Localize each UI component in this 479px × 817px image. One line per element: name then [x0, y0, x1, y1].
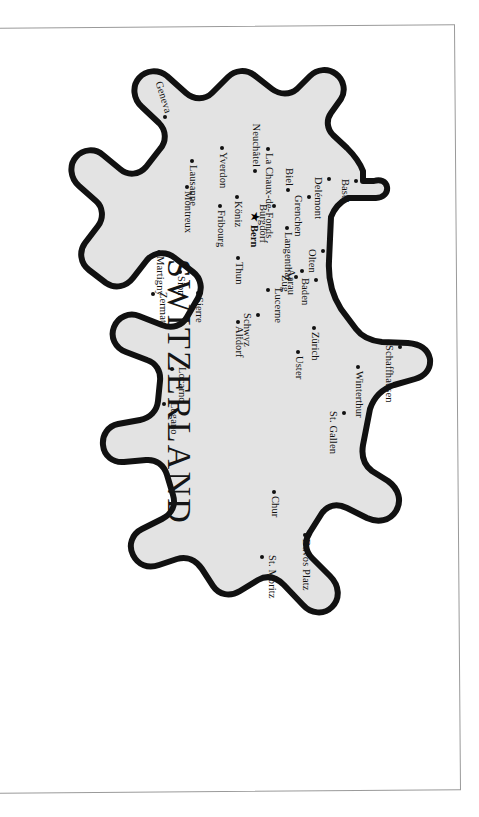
city-dot	[306, 194, 311, 199]
city-label-thun: Thun	[234, 262, 245, 285]
city-dot	[341, 410, 346, 415]
city-dot	[302, 532, 307, 537]
city-dot	[299, 268, 304, 273]
city-label-st-moritz: St. Moritz	[267, 555, 278, 599]
city-dot	[265, 287, 270, 292]
city-dot	[235, 255, 240, 260]
switzerland-outline-svg	[20, 29, 460, 789]
city-dot	[255, 312, 260, 317]
city-label-davos-platz: Davos Platz	[301, 539, 312, 591]
city-label-winterthur: Winterthur	[354, 371, 365, 418]
city-dot	[150, 291, 155, 296]
city-label-basel: Basel	[340, 179, 351, 203]
city-label-koniz: Köniz	[233, 201, 244, 227]
city-label-la-chaux-de-fonds: La Chaux-de-Fonds	[264, 153, 275, 238]
capital-star-icon: ★	[249, 211, 261, 223]
city-label-olten: Olten	[307, 249, 318, 273]
city-label-delemont: Delémont	[313, 177, 324, 219]
city-dot	[284, 225, 289, 230]
map-page: Basel Schaffhausen Winterthur St. Gallen…	[0, 0, 479, 817]
city-label-st-gallen: St. Gallen	[328, 411, 339, 454]
city-dot	[217, 203, 222, 208]
city-label-biel: Biel	[284, 168, 295, 186]
city-label-montreux: Montreux	[183, 191, 194, 233]
city-label-lucerne: Lucerne	[273, 288, 284, 323]
city-dot	[311, 325, 316, 330]
city-dot	[355, 364, 360, 369]
city-dot	[235, 319, 240, 324]
city-dot	[259, 554, 264, 559]
city-dot	[313, 277, 318, 282]
city-label-yverdon: Yverdon	[218, 152, 229, 188]
city-dot	[234, 194, 239, 199]
switzerland-map: Basel Schaffhausen Winterthur St. Gallen…	[20, 29, 460, 789]
city-label-bern: Bern	[249, 225, 260, 248]
city-label-baden: Baden	[300, 278, 311, 305]
city-label-altdorf: Altdorf	[234, 326, 245, 358]
city-dot	[162, 114, 167, 119]
city-dot	[219, 145, 224, 150]
city-dot	[326, 176, 331, 181]
city-dot	[353, 178, 358, 183]
city-label-fribourg: Fribourg	[216, 210, 227, 247]
city-dot	[285, 187, 290, 192]
city-label-chur: Chur	[270, 496, 281, 517]
city-dot	[189, 158, 194, 163]
city-label-uster: Uster	[294, 356, 305, 379]
city-dot	[265, 146, 270, 151]
city-dot	[156, 249, 161, 254]
city-dot	[397, 344, 402, 349]
city-dot	[184, 184, 189, 189]
city-label-neuchatel: Neuchâtel	[251, 123, 262, 166]
city-label-langenthal: Langenthal	[283, 232, 294, 280]
city-label-zurich: Zürich	[310, 332, 321, 361]
city-dot	[252, 168, 257, 173]
city-label-schaffhausen: Schaffhausen	[384, 345, 395, 403]
map-title: SWITZERLAND	[160, 259, 198, 525]
city-dot	[320, 248, 325, 253]
city-dot	[295, 349, 300, 354]
city-label-grenchen: Grenchen	[293, 195, 304, 237]
city-dot	[271, 489, 276, 494]
